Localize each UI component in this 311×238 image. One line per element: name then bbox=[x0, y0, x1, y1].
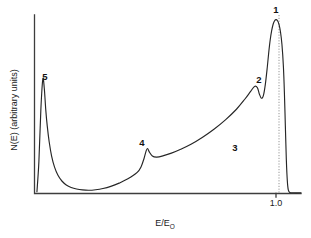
annotation-region-3: 3 bbox=[232, 142, 237, 153]
x-axis-title-main: E/E bbox=[155, 218, 170, 228]
y-axis-title: N(E) (arbitrary units) bbox=[9, 69, 19, 151]
annotation-peak-2: 2 bbox=[256, 74, 261, 85]
xtick-label-1: 1.0 bbox=[270, 198, 283, 208]
annotation-peak-4: 4 bbox=[139, 137, 145, 148]
chart-canvas: 1.0 E/EO N(E) (arbitrary units) 1 2 3 4 … bbox=[0, 0, 311, 238]
spectrum-figure: 1.0 E/EO N(E) (arbitrary units) 1 2 3 4 … bbox=[0, 0, 311, 238]
x-axis-title-subscript: O bbox=[170, 222, 175, 229]
annotation-peak-5: 5 bbox=[42, 71, 48, 82]
annotation-peak-1: 1 bbox=[273, 4, 279, 15]
